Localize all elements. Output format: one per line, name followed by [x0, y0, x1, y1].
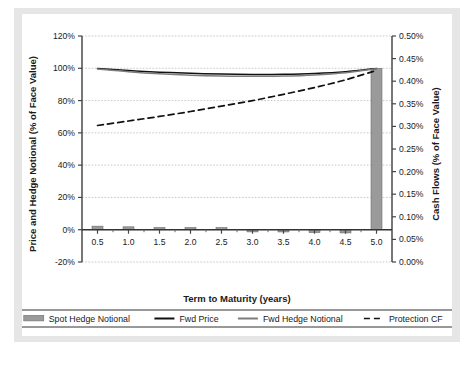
y-axis-left-title: Price and Hedge Notional (% of Face Valu… — [27, 56, 38, 252]
x-tick-label: 2.5 — [216, 237, 228, 247]
y2-tick-label: 0.30% — [399, 121, 424, 131]
y2-tick-label: 0.45% — [399, 54, 424, 64]
y2-tick-label: 0.15% — [399, 189, 424, 199]
x-tick-label: 2.0 — [185, 237, 197, 247]
y-tick-label: 80% — [58, 96, 76, 106]
bar — [371, 68, 382, 229]
legend-marker-bar — [24, 315, 44, 321]
x-tick-label: 1.5 — [154, 237, 166, 247]
y2-tick-label: 0.10% — [399, 212, 424, 222]
y2-tick-label: 0.00% — [399, 257, 424, 267]
legend-item-label: Fwd Price — [179, 314, 218, 324]
y2-tick-label: 0.35% — [399, 99, 424, 109]
x-tick-label: 0.5 — [92, 237, 104, 247]
y-tick-label: 20% — [58, 192, 76, 202]
y-tick-label: 40% — [58, 160, 76, 170]
x-tick-label: 5.0 — [371, 237, 383, 247]
y-tick-label: -20% — [55, 257, 75, 267]
legend-item-label: Spot Hedge Notional — [49, 314, 130, 324]
y2-tick-label: 0.40% — [399, 76, 424, 86]
legend-item-label: Protection CF — [389, 314, 443, 324]
chart-svg: 0.51.01.52.02.53.03.54.04.55.0 -20%0%20%… — [22, 14, 452, 336]
legend-item-label: Fwd Hedge Notional — [263, 314, 343, 324]
x-tick-label: 4.0 — [309, 237, 321, 247]
x-tick-label: 3.0 — [247, 237, 259, 247]
x-tick-label: 3.5 — [278, 237, 290, 247]
y-tick-label: 0% — [63, 225, 76, 235]
y2-tick-label: 0.25% — [399, 144, 424, 154]
y2-tick-label: 0.05% — [399, 234, 424, 244]
y2-tick-label: 0.20% — [399, 167, 424, 177]
y-axis-right-title: Cash Flows (% of Face Value) — [430, 87, 441, 221]
figure-page: 0.51.01.52.02.53.03.54.04.55.0 -20%0%20%… — [0, 0, 474, 367]
x-tick-label: 1.0 — [123, 237, 135, 247]
y2-tick-label: 0.50% — [399, 31, 424, 41]
chart-background — [22, 14, 452, 336]
x-axis-title: Term to Maturity (years) — [183, 293, 291, 304]
y-tick-label: 60% — [58, 128, 76, 138]
chart-legend: Spot Hedge NotionalFwd PriceFwd Hedge No… — [22, 310, 452, 327]
chart-container: 0.51.01.52.02.53.03.54.04.55.0 -20%0%20%… — [22, 14, 452, 336]
figure-card: 0.51.01.52.02.53.03.54.04.55.0 -20%0%20%… — [22, 14, 452, 336]
y-tick-label: 120% — [53, 31, 75, 41]
y-tick-label: 100% — [53, 63, 75, 73]
x-tick-label: 4.5 — [340, 237, 352, 247]
